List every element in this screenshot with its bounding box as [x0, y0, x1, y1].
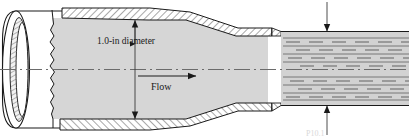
nozzle-flow-figure: 1.0-in diameter Flow P10.1: [0, 0, 409, 137]
clipped-caption: P10.1: [306, 129, 324, 137]
figure-canvas: 1.0-in diameter Flow P10.1: [0, 0, 409, 137]
free-jet: [281, 32, 409, 106]
diameter-label: 1.0-in diameter: [97, 36, 156, 46]
flow-label: Flow: [151, 81, 172, 92]
